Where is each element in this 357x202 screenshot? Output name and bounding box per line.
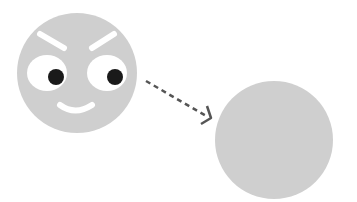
- face-icon: [17, 13, 137, 133]
- dashed-arrow-icon: [146, 81, 211, 124]
- left-pupil: [48, 69, 64, 85]
- blank-circle: [215, 81, 333, 199]
- illustration-canvas: [0, 0, 357, 202]
- right-pupil: [107, 69, 123, 85]
